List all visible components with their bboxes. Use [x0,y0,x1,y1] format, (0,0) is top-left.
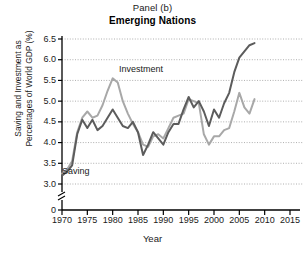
series-annotation-investment: Investment [119,64,163,74]
y-tick-label: 4.5 [30,117,56,126]
y-tick-label: 5.0 [30,97,56,106]
axis-ticks [58,39,290,215]
y-tick-label: 3.5 [30,159,56,168]
y-axis-label-line1: Saving and Investment as [13,9,24,169]
y-tick-label: 3.0 [30,180,56,189]
y-tick-label: 5.5 [30,76,56,85]
x-axis-label: Year [0,233,305,244]
y-tick-label: 6.0 [30,55,56,64]
gridlines [62,39,303,210]
series-annotation-saving: Saving [62,166,90,176]
y-tick-label-zero: 0 [30,206,56,215]
y-tick-label: 4.0 [30,138,56,147]
y-tick-label: 6.5 [30,35,56,44]
chart-figure: Panel (b) Emerging Nations Saving and In… [0,0,305,253]
x-tick-label: 2015 [270,215,305,225]
series-line-investment [62,78,255,173]
